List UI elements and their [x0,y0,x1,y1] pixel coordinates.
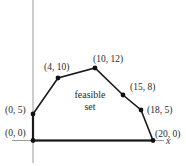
feasible-set-diagram: x (0, 0) (0, 5) (4, 10) (10, 12) (15, 8)… [0,0,186,166]
vertex-dot-15-8 [121,93,126,98]
vertex-label-0-5: (0, 5) [5,105,26,116]
vertex-label-15-8: (15, 8) [130,82,155,93]
vertex-dot-4-10 [56,76,61,81]
vertex-dot-0-5 [31,112,36,117]
vertex-dot-10-12 [93,66,98,71]
vertex-dot-18-5 [139,108,144,113]
region-label-line2: set [84,101,95,112]
region-label-line1: feasible [74,89,106,100]
vertex-label-20-0: (20, 0) [155,129,180,140]
vertex-label-0-0: (0, 0) [5,128,26,139]
vertex-label-4-10: (4, 10) [44,62,69,73]
vertex-label-18-5: (18, 5) [147,105,172,116]
vertex-label-10-12: (10, 12) [93,54,123,65]
vertex-dot-0-0 [31,138,36,143]
